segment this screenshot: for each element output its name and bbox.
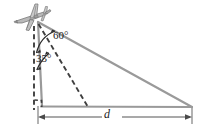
distance-label-d: d <box>104 108 110 120</box>
ground-baseline <box>41 107 192 108</box>
angle-label-35: 35° <box>36 53 51 64</box>
arrow-right-icon <box>185 114 192 119</box>
dimension-line-d <box>38 114 192 119</box>
figure-container: 60° 35° d <box>0 0 208 132</box>
arrow-left-icon <box>38 114 45 119</box>
angle-label-60: 60° <box>53 30 68 41</box>
